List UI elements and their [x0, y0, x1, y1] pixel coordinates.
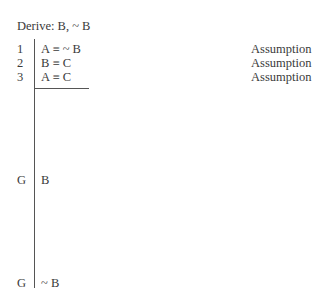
line-1-justification: Assumption [251, 42, 311, 56]
line-1-formula: A ≡ ~ B [41, 42, 81, 56]
proof-scope-line [34, 39, 35, 288]
goal-2-label: G [17, 276, 26, 290]
goal-2-formula: ~ B [41, 276, 59, 290]
line-2-formula: B ≡ C [41, 56, 71, 70]
goal-1-label: G [17, 173, 26, 187]
line-2-justification: Assumption [251, 56, 311, 70]
line-2-number: 2 [17, 56, 23, 70]
line-1-number: 1 [17, 42, 23, 56]
line-3-number: 3 [17, 70, 23, 84]
line-3-formula: A ≡ C [41, 70, 71, 84]
line-3-justification: Assumption [251, 70, 311, 84]
assumption-bar [34, 88, 89, 89]
derivation-title: Derive: B, ~ B [17, 19, 90, 33]
goal-1-formula: B [41, 173, 49, 187]
